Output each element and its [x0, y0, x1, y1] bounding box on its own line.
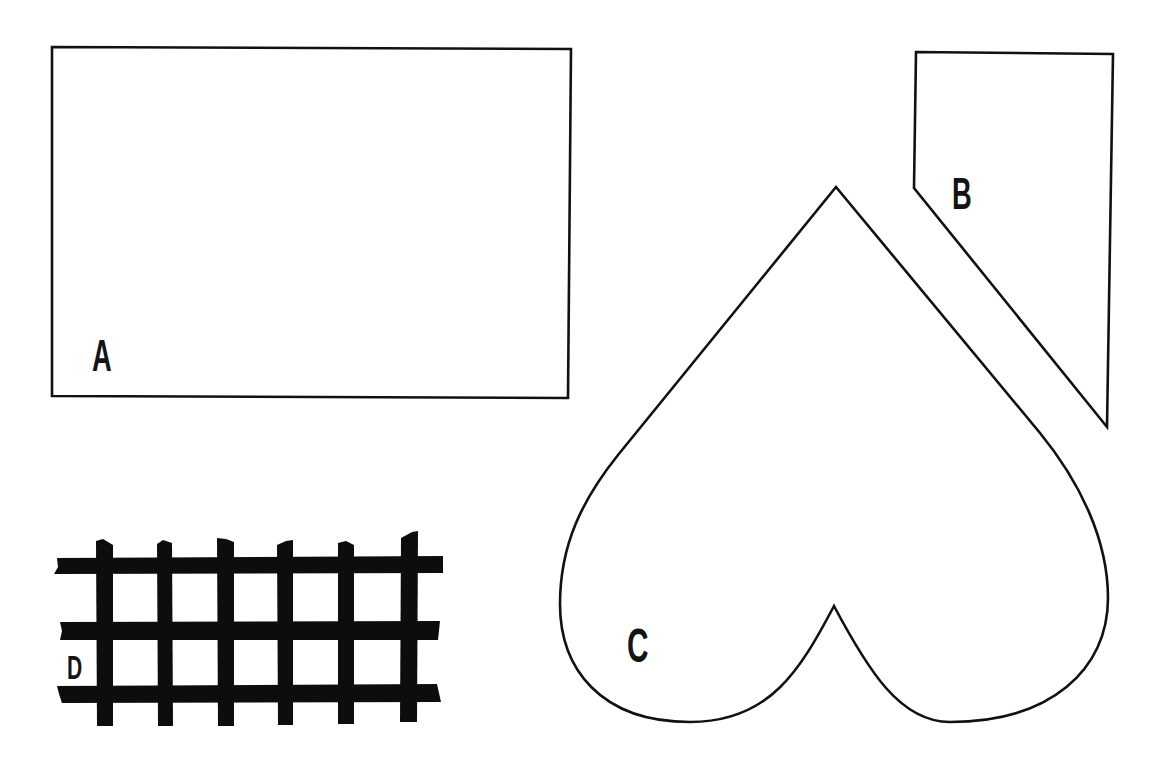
shape-b-label: B [952, 172, 972, 216]
lattice-vertical-bar [217, 538, 234, 726]
shape-d-lattice [54, 531, 443, 726]
pattern-diagram [0, 0, 1166, 771]
shape-c-label: C [627, 622, 648, 670]
lattice-vertical-bar [157, 540, 173, 726]
shape-d-label: D [67, 650, 82, 684]
lattice-vertical-bar [277, 540, 293, 725]
lattice-vertical-bar [400, 531, 418, 722]
shape-a-label: A [92, 334, 112, 378]
shape-a-rectangle [52, 47, 571, 398]
lattice-horizontal-bar [57, 684, 441, 703]
lattice-vertical-bar [96, 539, 113, 726]
lattice-horizontal-bar [60, 621, 440, 640]
lattice-vertical-bar [338, 541, 354, 724]
